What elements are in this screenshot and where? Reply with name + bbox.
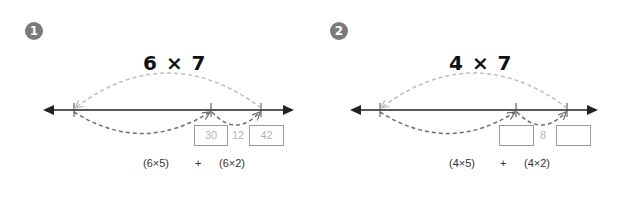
difference-label: 8 [533,126,553,145]
left-arrow-icon [350,105,361,115]
answer-box-second[interactable] [556,125,591,146]
difference-label: 12 [228,126,248,145]
second-jump-arc [517,112,566,125]
expression-operator: + [500,157,506,169]
expression-left: (6×5) [143,157,169,169]
first-jump-arc [74,112,210,134]
answer-box-first[interactable]: 30 [194,125,228,146]
number-line-diagram [0,0,310,201]
answer-box-first[interactable] [499,125,534,146]
expression-right: (6×2) [219,157,245,169]
problem-1-panel: 1 6 × 7 30 12 42 (6×5) + (6×2) [0,0,310,201]
expression-left: (4×5) [449,157,475,169]
right-arrow-icon [283,105,294,115]
total-jump-arc [381,73,567,108]
left-arrow-icon [43,105,54,115]
right-arrow-icon [587,105,598,115]
answer-box-second[interactable]: 42 [249,125,284,146]
first-jump-arc [380,112,515,134]
number-line-diagram [306,0,619,201]
total-jump-arc [75,73,261,108]
expression-operator: + [195,157,201,169]
second-jump-arc [212,112,260,125]
problem-2-panel: 2 4 × 7 8 (4×5) + (4×2) [306,0,619,201]
expression-right: (4×2) [524,157,550,169]
